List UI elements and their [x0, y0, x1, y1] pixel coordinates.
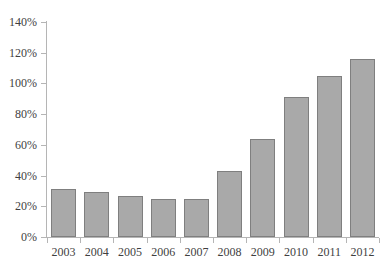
x-axis-tick-mark	[379, 238, 380, 243]
x-axis-tick-label: 2012	[342, 246, 381, 259]
y-axis-tick-label: 140%	[0, 16, 37, 28]
bar-2009	[250, 139, 275, 237]
bar-2003	[51, 189, 76, 237]
x-axis-tick-mark	[180, 238, 181, 243]
bar-2010	[284, 97, 309, 237]
x-axis-tick-mark	[213, 238, 214, 243]
y-axis-tick-label: 0%	[0, 231, 37, 243]
bar-2007	[184, 199, 209, 237]
x-axis-tick-mark	[47, 238, 48, 243]
plot-area	[47, 22, 379, 237]
x-axis-tick-mark	[346, 238, 347, 243]
bar-2006	[151, 199, 176, 237]
y-axis-tick-label: 120%	[0, 47, 37, 59]
bar-2012	[350, 59, 375, 237]
y-axis-tick-label: 40%	[0, 170, 37, 182]
y-axis-tick-label: 20%	[0, 200, 37, 212]
y-axis-tick-label: 60%	[0, 139, 37, 151]
bar-2011	[317, 76, 342, 237]
x-axis-tick-mark	[147, 238, 148, 243]
bar-2008	[217, 171, 242, 237]
y-axis-tick-label: 80%	[0, 108, 37, 120]
y-axis-tick-label: 100%	[0, 77, 37, 89]
bar-chart: 0%20%40%60%80%100%120%140% 2003200420052…	[0, 0, 381, 267]
bar-2004	[84, 192, 109, 237]
x-axis-tick-mark	[113, 238, 114, 243]
x-axis-tick-mark	[279, 238, 280, 243]
x-axis-tick-mark	[246, 238, 247, 243]
x-axis-tick-mark	[313, 238, 314, 243]
bar-2005	[118, 196, 143, 237]
x-axis-tick-mark	[80, 238, 81, 243]
